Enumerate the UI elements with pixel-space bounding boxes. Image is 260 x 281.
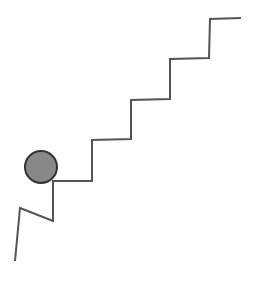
ball-circle (25, 151, 57, 183)
diagram-canvas (0, 0, 260, 281)
staircase-line (15, 18, 241, 261)
staircase-figure (0, 0, 260, 281)
